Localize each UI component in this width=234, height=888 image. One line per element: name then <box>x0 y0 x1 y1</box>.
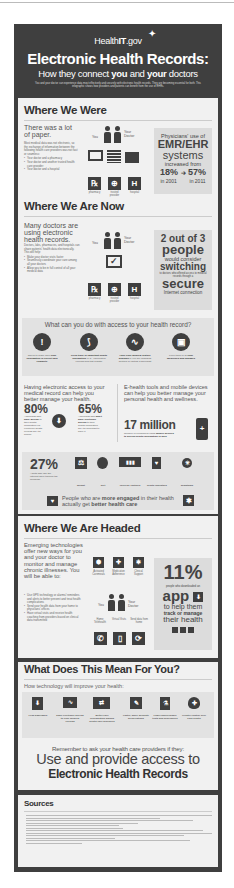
telehealth-label: Home Telehealth <box>92 618 108 624</box>
hospital-icon: H <box>128 283 141 296</box>
subtitle-you: you <box>111 68 127 79</box>
stat-people: people <box>154 244 212 256</box>
stat-to-year: in 2011 <box>190 178 206 184</box>
brand-logo: HealthIT.gov <box>14 36 222 46</box>
stat-from-year: in 2001 <box>160 178 176 184</box>
you-label: You <box>92 241 98 245</box>
asterisk-icon: ✱ <box>183 495 194 506</box>
bullet-item: Your doctor and a hospital <box>24 168 78 172</box>
clinical-support-label: Clinical Support <box>130 570 147 576</box>
computer-icon <box>88 150 103 161</box>
main-subtitle: How they connect you and your doctors <box>14 68 222 79</box>
patient-figure-icon <box>104 126 111 142</box>
stat-80-caption: Americans who have access to their healt… <box>24 415 46 436</box>
source-line <box>26 840 190 841</box>
download-icon: ⬇ <box>52 414 66 428</box>
source-line <box>26 830 203 831</box>
source-line <box>26 835 184 836</box>
download-icon: ⬇ <box>193 592 203 602</box>
improvement-label: Greater control over your health <box>181 714 207 720</box>
caption-text: to their health information via electron… <box>24 418 42 436</box>
stat-65-percent: 65% <box>78 402 102 416</box>
weight-label: weight <box>70 484 92 487</box>
switching-stat-box: 2 out of 3 people would consider switchi… <box>154 230 212 310</box>
headed-lead: Emerging technologies offer new ways for… <box>24 542 86 579</box>
divider <box>24 216 212 217</box>
section-title-where-we-are-now: Where We Are Now <box>24 200 124 212</box>
source-line <box>26 843 82 844</box>
bullet-item: Allow you to be in full control of all y… <box>24 267 80 274</box>
source-line <box>26 828 123 829</box>
paper-stack-icon <box>107 150 121 163</box>
pharmacy-label: pharmacy <box>86 297 103 300</box>
doctor-label: Your Doctor <box>124 130 140 138</box>
symptoms-label: symptoms <box>175 484 199 487</box>
engagement-banner: People who are more engaged in their hea… <box>62 495 174 507</box>
divider <box>24 538 212 539</box>
heart-monitor-icon: ♥ <box>47 496 58 506</box>
mobile-phone-icon: + <box>196 418 208 440</box>
brand-gov: .gov <box>126 36 142 46</box>
improvement-subtitle: How technology will improve your health: <box>24 683 124 689</box>
drop-icon <box>188 627 194 633</box>
apple-icon <box>97 457 108 469</box>
diet-label: diet <box>92 484 114 487</box>
less-paperwork-icon: ⬇ <box>32 697 43 710</box>
hospital-label: hospital <box>126 191 143 194</box>
provider-label: trusted provider <box>106 191 123 197</box>
source-line <box>26 823 138 824</box>
mobile-device-icon: ▯ <box>113 632 126 645</box>
improvement-label: Less paperwork <box>26 714 50 717</box>
alert-icon: ! <box>33 333 51 351</box>
health-monitor-icon: ♥ <box>152 457 161 469</box>
stat-line: their health <box>154 616 212 624</box>
source-line <box>26 818 160 819</box>
source-line <box>26 815 212 816</box>
improvement-label: Faster, more accurate prescriptions <box>122 714 150 720</box>
doctor-figure-icon <box>118 594 125 610</box>
doctor-figure-icon <box>114 126 121 142</box>
pharmacy-icon: ℞ <box>88 177 101 190</box>
stat-27-percent: 27% <box>30 456 58 472</box>
prescriptions-icon: ✎ <box>130 697 142 709</box>
access-caption: Check to make sure your information is c… <box>24 354 60 363</box>
dna-icon: ⟆ <box>80 333 98 351</box>
stat-11-percent: 11% <box>154 562 212 582</box>
remember-emphasis: Use and provide access to <box>18 752 218 767</box>
access-title: What can you do with access to your heal… <box>22 321 214 328</box>
access-caption: Keep track of important health informati… <box>70 354 108 363</box>
hospital-icon: H <box>128 177 141 190</box>
doctor-figure-icon <box>114 232 121 248</box>
doctor-label: Your Doctor <box>124 236 140 244</box>
improvement-label: Fewer unnecessary tests and procedures <box>152 714 178 720</box>
source-line <box>26 820 193 821</box>
pharmacy-label: pharmacy <box>86 191 103 194</box>
exercise-label: exercise routines <box>118 484 142 487</box>
doctor-label: Your Doctor <box>128 600 144 608</box>
intro-text: You and your doctor can experience data … <box>30 82 206 88</box>
hospital-label: hospital <box>126 297 143 300</box>
heart-icon <box>180 627 186 633</box>
weight-scale-icon: ⚖ <box>75 457 87 469</box>
medication-icon: ✚ <box>113 557 124 568</box>
app-icons <box>154 627 212 633</box>
app-stat-box: 11% people who downloaded an app ⬇ to he… <box>154 558 212 650</box>
send-data-label: Send data from home <box>130 618 148 624</box>
medicine-bottle-icon: ▣ <box>172 333 190 351</box>
main-title: Electronic Health Records: <box>14 50 222 67</box>
folder-icon <box>125 152 139 163</box>
where-we-are-now-body: Doctors, labs, pharmacies, and hospitals… <box>24 244 80 274</box>
pharmacy-icon: ℞ <box>88 283 101 296</box>
improvement-label: Easy electronic access to your medical r… <box>56 714 84 723</box>
stat-17-million: 17 million <box>124 418 175 432</box>
stat-line: to help them <box>154 603 212 610</box>
remember-ehr: Electronic Health Records <box>18 767 218 781</box>
stat-from-value: 18% <box>160 167 178 177</box>
infographic-header: ✦ HealthIT.gov Electronic Health Records… <box>14 24 222 96</box>
stat-secure: secure <box>154 278 212 290</box>
clinical-support-icon: ✱ <box>133 557 144 568</box>
section-title-where-we-are-headed: Where We Are Headed <box>24 522 140 534</box>
heartbeat-icon: ∿ <box>126 333 144 351</box>
manage-right-lead: E-health tools and mobile devices can he… <box>124 384 208 402</box>
vertical-divider <box>117 384 118 442</box>
